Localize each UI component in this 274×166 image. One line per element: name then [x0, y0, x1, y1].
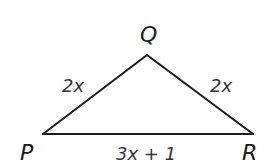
- triangle-diagram: Q P R 2x 2x 3x + 1: [0, 0, 274, 166]
- vertex-label-q: Q: [140, 22, 157, 47]
- side-label-qr: 2x: [210, 75, 232, 96]
- side-label-pr: 3x + 1: [116, 143, 176, 164]
- vertex-label-p: P: [20, 140, 34, 165]
- side-label-pq: 2x: [62, 75, 84, 96]
- vertex-label-r: R: [242, 140, 257, 165]
- side-pq: [43, 55, 147, 134]
- side-qr: [147, 55, 253, 134]
